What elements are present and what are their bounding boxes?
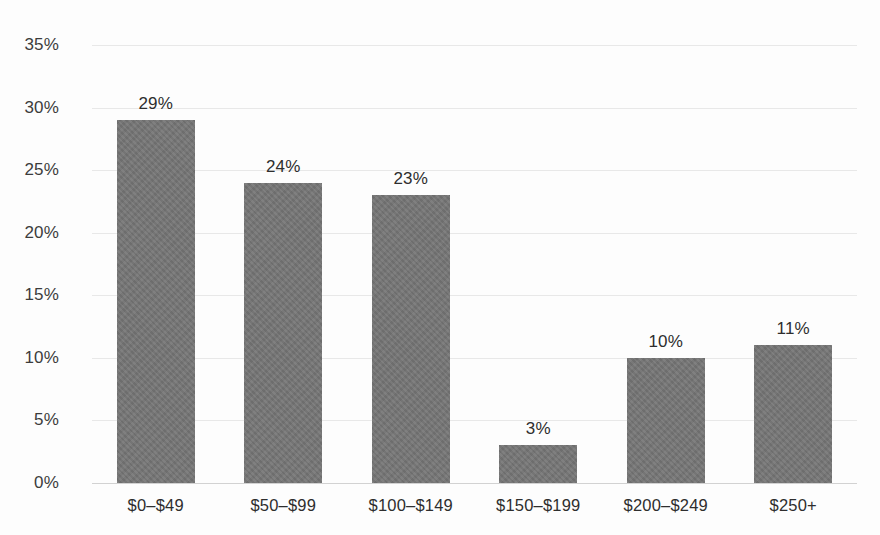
bar[interactable]	[754, 345, 832, 483]
bar-value-label: 11%	[730, 319, 858, 339]
y-axis-tick-label: 10%	[0, 348, 59, 368]
bar-value-label: 29%	[92, 94, 220, 114]
bar[interactable]	[499, 445, 577, 483]
gridline-0%	[92, 483, 857, 484]
y-axis-tick-label: 15%	[0, 285, 59, 305]
bar-chart: 0%5%10%15%20%25%30%35%29%24%23%3%10%11% …	[0, 0, 880, 535]
gridline-35%	[92, 45, 857, 46]
y-axis-tick-label: 30%	[0, 98, 59, 118]
x-axis-category-label: $100–$149	[347, 496, 475, 515]
x-axis-category-label: $0–$49	[92, 496, 220, 515]
plot-area: 0%5%10%15%20%25%30%35%29%24%23%3%10%11%	[92, 45, 857, 483]
y-axis-tick-label: 0%	[0, 473, 59, 493]
bar-value-label: 10%	[602, 332, 730, 352]
y-axis-tick-label: 5%	[0, 410, 59, 430]
x-axis-category-label: $150–$199	[475, 496, 603, 515]
bar[interactable]	[117, 120, 195, 483]
gridline-10%	[92, 358, 857, 359]
bar[interactable]	[627, 358, 705, 483]
x-axis-category-label: $50–$99	[220, 496, 348, 515]
y-axis-tick-label: 25%	[0, 160, 59, 180]
x-axis-category-label: $250+	[730, 496, 858, 515]
gridline-15%	[92, 295, 857, 296]
bar[interactable]	[244, 183, 322, 483]
bar[interactable]	[372, 195, 450, 483]
y-axis-tick-label: 20%	[0, 223, 59, 243]
gridline-25%	[92, 170, 857, 171]
bar-value-label: 24%	[220, 157, 348, 177]
gridline-20%	[92, 233, 857, 234]
y-axis-tick-label: 35%	[0, 35, 59, 55]
bar-value-label: 3%	[475, 419, 603, 439]
bar-value-label: 23%	[347, 169, 475, 189]
x-axis-category-label: $200–$249	[602, 496, 730, 515]
